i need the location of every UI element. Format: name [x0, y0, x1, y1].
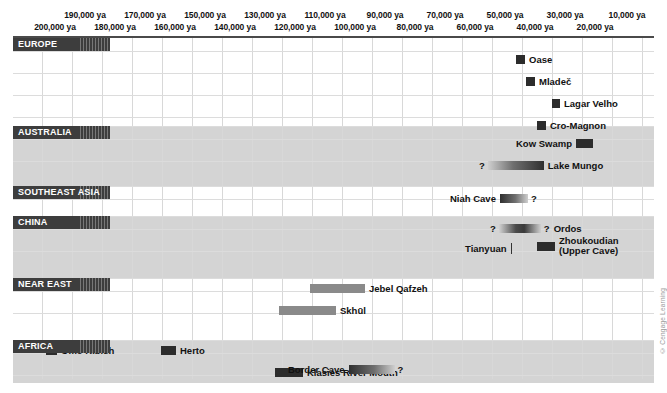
bar-zhoukoudian [537, 242, 555, 251]
bar-border-cave [349, 365, 395, 374]
timeline-entry-niah-cave[interactable]: Niah Cave ? [450, 193, 540, 204]
axis-tick-lower: 140,000 ya [214, 22, 256, 32]
region-label-near-east: NEAR EAST [13, 278, 110, 291]
timeline-entry-herto[interactable]: Herto [161, 345, 209, 356]
copyright-credit: © Cengage Learning [659, 288, 666, 354]
entry-label-zhoukoudian-sub: (Upper Cave) [559, 245, 618, 256]
uncertainty-marker-lake-mungo: ? [479, 160, 488, 171]
axis-tick-lower: 20,000 ya [577, 22, 614, 32]
bar-lagar-velho [552, 99, 560, 108]
bar-niah-cave [500, 194, 528, 203]
axis-tick-upper: 10,000 ya [609, 10, 646, 20]
timeline-figure: 190,000 ya 170,000 ya 150,000 ya 130,000… [0, 0, 667, 393]
entry-label-herto: Herto [176, 345, 209, 356]
entry-label-lagar-velho: Lagar Velho [560, 98, 622, 109]
bar-tianyuan [511, 243, 513, 254]
axis-tick-upper: 150,000 ya [184, 10, 226, 20]
timeline-entry-border-cave-row[interactable]: Border Cave ? [288, 364, 406, 375]
timeline-entry-tianyuan[interactable]: Tianyuan [465, 243, 512, 254]
bar-kow-swamp [576, 139, 593, 148]
timeline-entry-kow-swamp[interactable]: Kow Swamp [516, 138, 593, 149]
region-label-africa: AFRICA [13, 340, 110, 353]
entry-label-niah-cave: Niah Cave [450, 193, 500, 204]
bar-herto [161, 346, 176, 355]
bar-lake-mungo [488, 161, 544, 170]
region-label-china: CHINA [13, 216, 110, 229]
uncertainty-marker-ordos-right: ? [541, 223, 553, 234]
uncertainty-marker-border-cave: ? [395, 364, 407, 375]
timeline-entry-oase[interactable]: Oase [516, 54, 556, 65]
bar-cro-magnon [537, 121, 546, 130]
axis-tick-upper: 110,000 ya [304, 10, 345, 20]
axis-tick-lower: 180,000 ya [94, 22, 136, 32]
axis-tick-upper: 30,000 ya [547, 10, 584, 20]
timeline-plot: EUROPE AUSTRALIA SOUTHEAST ASIA CHINA NE… [13, 36, 654, 381]
uncertainty-marker-ordos-left: ? [490, 223, 499, 234]
entry-label-cro-magnon: Cro-Magnon [546, 120, 610, 131]
axis-tick-lower: 200,000 ya [34, 22, 76, 32]
axis-tick-upper: 50,000 ya [487, 10, 524, 20]
entry-label-mladec: Mladeč [535, 76, 575, 87]
timeline-entry-ordos[interactable]: ? ? Ordos [490, 223, 586, 234]
entry-label-kow-swamp: Kow Swamp [516, 138, 576, 149]
axis-tick-upper: 170,000 ya [124, 10, 166, 20]
timeline-entry-zhoukoudian[interactable]: Zhoukoudian (Upper Cave) [537, 236, 623, 256]
timeline-entry-skhul[interactable]: Skhūl [279, 305, 370, 316]
axis-tick-lower: 40,000 ya [517, 22, 554, 32]
axis-tick-lower: 160,000 ya [154, 22, 196, 32]
axis-tick-lower: 80,000 ya [397, 22, 434, 32]
entry-label-skhul: Skhūl [336, 305, 370, 316]
bar-skhul [279, 306, 336, 315]
axis-tick-upper: 70,000 ya [427, 10, 464, 20]
bar-mladec [526, 77, 535, 86]
axis-tick-upper: 130,000 ya [244, 10, 286, 20]
bar-ordos [499, 224, 541, 233]
entry-label-tianyuan: Tianyuan [465, 243, 511, 254]
entry-label-border-cave: Border Cave [288, 364, 349, 375]
timeline-entry-jebel-qafzeh[interactable]: Jebel Qafzeh [310, 283, 432, 294]
axis-tick-lower: 60,000 ya [457, 22, 494, 32]
axis-tick-lower: 120,000 ya [274, 22, 316, 32]
region-label-europe: EUROPE [13, 38, 110, 51]
axis-tick-lower: 100,000 ya [334, 22, 376, 32]
entry-label-oase: Oase [525, 54, 556, 65]
entry-label-ordos: Ordos [553, 223, 586, 234]
bar-oase [516, 55, 525, 64]
uncertainty-marker-niah-cave: ? [528, 193, 540, 204]
axis-tick-upper: 90,000 ya [367, 10, 404, 20]
timeline-entry-cro-magnon[interactable]: Cro-Magnon [537, 120, 610, 131]
entry-label-jebel-qafzeh: Jebel Qafzeh [365, 283, 432, 294]
timeline-entry-lagar-velho[interactable]: Lagar Velho [552, 98, 622, 109]
time-axis: 190,000 ya 170,000 ya 150,000 ya 130,000… [0, 0, 667, 35]
timeline-entry-mladec[interactable]: Mladeč [526, 76, 575, 87]
axis-tick-upper: 190,000 ya [64, 10, 106, 20]
bar-jebel-qafzeh [310, 284, 365, 293]
region-label-southeast-asia: SOUTHEAST ASIA [13, 186, 110, 199]
entry-label-lake-mungo: Lake Mungo [544, 160, 607, 171]
region-label-australia: AUSTRALIA [13, 126, 110, 139]
timeline-entry-lake-mungo[interactable]: ? Lake Mungo [479, 160, 607, 171]
